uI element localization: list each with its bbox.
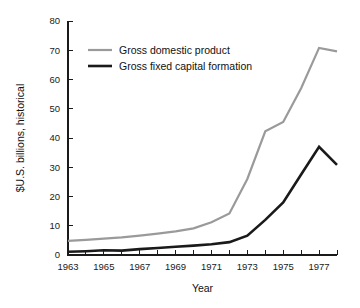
data-series <box>68 48 337 252</box>
chart-container: 01020304050607080 1963196519671969197119… <box>0 0 360 308</box>
y-tick-label: 80 <box>49 15 60 26</box>
x-tick-label: 1971 <box>201 261 222 272</box>
series-line-2 <box>68 147 337 252</box>
y-tick-label: 50 <box>49 103 60 114</box>
y-axis-ticks: 01020304050607080 <box>49 15 73 260</box>
x-tick-label: 1973 <box>237 261 258 272</box>
y-tick-label: 40 <box>49 132 60 143</box>
x-tick-label: 1963 <box>57 261 78 272</box>
legend-label: Gross fixed capital formation <box>119 60 252 72</box>
y-axis-title: $U.S. billions, historical <box>14 84 26 193</box>
y-tick-label: 70 <box>49 45 60 56</box>
chart-legend: Gross domestic productGross fixed capita… <box>88 44 252 72</box>
x-tick-label: 1965 <box>93 261 114 272</box>
y-tick-label: 60 <box>49 74 60 85</box>
line-chart: 01020304050607080 1963196519671969197119… <box>0 0 360 308</box>
y-tick-label: 0 <box>55 249 60 260</box>
x-tick-label: 1977 <box>308 261 329 272</box>
axes <box>68 21 337 255</box>
series-line-1 <box>68 48 337 241</box>
x-tick-label: 1975 <box>273 261 294 272</box>
legend-label: Gross domestic product <box>119 44 230 56</box>
y-tick-label: 20 <box>49 191 60 202</box>
y-tick-label: 10 <box>49 220 60 231</box>
y-tick-label: 30 <box>49 162 60 173</box>
x-tick-label: 1969 <box>165 261 186 272</box>
x-axis-ticks: 19631965196719691971197319751977 <box>57 250 337 272</box>
axis-spines <box>68 21 337 255</box>
x-axis-title: Year <box>192 282 214 294</box>
plot-area: 01020304050607080 1963196519671969197119… <box>14 15 337 294</box>
x-tick-label: 1967 <box>129 261 150 272</box>
